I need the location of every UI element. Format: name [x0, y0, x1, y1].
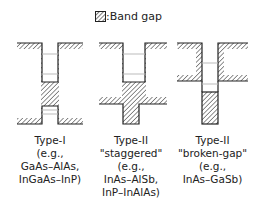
example-prefix: (e.g., — [170, 160, 255, 173]
type-ii-broken-gap-diagram — [177, 43, 248, 124]
type-ii-staggered-diagram — [99, 43, 167, 124]
type-ii-broken-gap-caption: Type-II "broken-gap" (e.g., InAs–GaSb) — [170, 134, 255, 186]
type-label: Type-II — [170, 134, 255, 147]
example-line: InAs–GaSb) — [170, 173, 255, 186]
band-alignment-diagrams — [0, 0, 257, 135]
example-line: InP–InAlAs) — [88, 186, 174, 199]
example-prefix: (e.g., — [88, 160, 174, 173]
type-i-caption: Type-I (e.g., GaAs–AlAs, InGaAs–InP) — [5, 134, 95, 186]
example-line: GaAs–AlAs, — [5, 160, 95, 173]
type-i-diagram — [17, 43, 83, 124]
example-line: InAs–AlSb, — [88, 173, 174, 186]
example-line: InGaAs–InP) — [5, 173, 95, 186]
type-label: Type-I — [5, 134, 95, 147]
type-ii-staggered-caption: Type-II "staggered" (e.g., InAs–AlSb, In… — [88, 134, 174, 199]
type-label: Type-II — [88, 134, 174, 147]
subtitle: "broken-gap" — [170, 147, 255, 160]
subtitle: "staggered" — [88, 147, 174, 160]
example-prefix: (e.g., — [5, 147, 95, 160]
